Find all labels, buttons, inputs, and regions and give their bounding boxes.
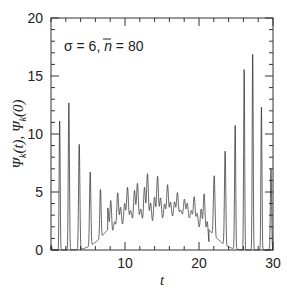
annotation-nbar-value: = 80	[112, 38, 144, 54]
x-tick-label: 30	[265, 255, 281, 271]
y-axis-label: Ψk(t), Ψk(0)	[10, 99, 28, 168]
x-axis-label: t	[160, 272, 165, 288]
y-tick-label: 5	[35, 184, 43, 200]
y-tick-label: 15	[27, 68, 43, 84]
x-tick-label: 20	[191, 255, 207, 271]
y-tick-label: 20	[27, 10, 43, 26]
y-label-arg1: (t), Ψ	[10, 120, 27, 154]
series-line	[51, 54, 273, 250]
chart: 102030 05101520 σ = 6, n = 80 t Ψk(t), Ψ…	[0, 0, 287, 297]
annotation-nbar: n	[104, 38, 112, 54]
y-label-arg2: (0)	[10, 99, 27, 117]
annotation-sigma: σ = 6,	[64, 38, 104, 54]
y-tick-label: 10	[27, 126, 43, 142]
x-tick-labels: 102030	[117, 255, 281, 271]
y-tick-labels: 05101520	[27, 10, 43, 258]
x-tick-label: 10	[117, 255, 133, 271]
y-tick-label: 0	[35, 242, 43, 258]
annotation: σ = 6, n = 80	[64, 38, 144, 54]
